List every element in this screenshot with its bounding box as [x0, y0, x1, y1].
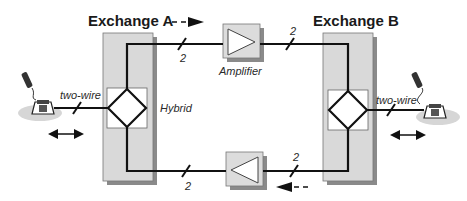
dashed-arrow-left-icon	[276, 182, 308, 192]
two-wire-four-wire-diagram: Exchange A Hybrid Exchange B Amplifier 2	[0, 0, 467, 201]
hybrid-label: Hybrid	[160, 102, 193, 114]
left-subscriber: two-wire	[18, 71, 108, 121]
dashed-arrow-right-icon	[172, 17, 204, 27]
wire-count-top-right: 2	[289, 25, 296, 37]
left-two-wire-label: two-wire	[60, 89, 101, 101]
right-double-arrow-icon	[390, 130, 426, 140]
wire-count-bottom-left: 2	[184, 180, 191, 192]
left-double-arrow-icon	[48, 129, 84, 139]
amplifier-label: Amplifier	[218, 65, 263, 77]
exchange-a: Exchange A Hybrid	[88, 12, 193, 185]
amplifier-top: Amplifier	[218, 24, 264, 77]
right-two-wire-label: two-wire	[376, 94, 417, 106]
wire-count-top-left: 2	[179, 52, 186, 64]
right-subscriber: two-wire	[367, 71, 460, 125]
amplifier-bottom	[226, 152, 267, 190]
wire-count-bottom-right: 2	[292, 151, 299, 163]
exchange-b-title: Exchange B	[313, 12, 399, 29]
exchange-a-title: Exchange A	[88, 12, 173, 29]
